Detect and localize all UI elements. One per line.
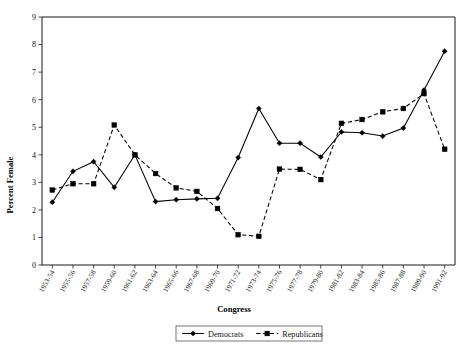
x-tick-label: 1973-74 xyxy=(244,269,263,294)
square-marker-icon xyxy=(380,109,385,114)
square-marker-icon xyxy=(318,177,323,182)
y-tick-label: 0 xyxy=(32,261,36,270)
y-tick-label: 4 xyxy=(32,151,36,160)
y-tick-label: 7 xyxy=(32,68,36,77)
diamond-marker-icon xyxy=(359,130,364,135)
data-series-group xyxy=(50,49,448,239)
y-tick-label: 2 xyxy=(32,206,36,215)
square-marker-icon xyxy=(442,147,447,152)
diamond-marker-icon xyxy=(380,133,385,138)
diamond-marker-icon xyxy=(277,141,282,146)
square-marker-icon xyxy=(277,167,282,172)
x-tick-label: 1961-62 xyxy=(120,269,139,294)
square-marker-icon xyxy=(194,189,199,194)
diamond-marker-icon xyxy=(256,106,261,111)
x-axis-ticks: 1953-541955-561957-581959-601961-621963-… xyxy=(38,265,449,294)
square-marker-icon xyxy=(71,181,76,186)
square-marker-icon xyxy=(339,121,344,126)
square-marker-icon xyxy=(215,206,220,211)
legend-label: Republicans xyxy=(282,330,322,339)
square-marker-icon xyxy=(174,185,179,190)
series-line xyxy=(52,51,444,202)
x-tick-label: 1991-92 xyxy=(430,269,449,294)
x-tick-label: 1957-58 xyxy=(79,269,98,294)
x-tick-label: 1965-66 xyxy=(162,269,181,294)
chart-container: 0123456789 1953-541955-561957-581959-601… xyxy=(0,0,468,350)
square-marker-icon xyxy=(133,152,138,157)
x-tick-label: 1953-54 xyxy=(38,269,57,294)
diamond-marker-icon xyxy=(236,155,241,160)
x-tick-label: 1969-70 xyxy=(203,269,222,294)
y-tick-label: 3 xyxy=(32,178,36,187)
x-tick-label: 1981-82 xyxy=(327,269,346,294)
y-tick-label: 1 xyxy=(32,233,36,242)
series-republicans xyxy=(50,91,447,239)
x-tick-label: 1987-88 xyxy=(389,269,408,294)
plot-frame xyxy=(42,17,455,265)
square-marker-icon xyxy=(401,106,406,111)
x-tick-label: 1975-76 xyxy=(265,269,284,294)
diamond-marker-icon xyxy=(442,49,447,54)
chart-legend: DemocratsRepublicans xyxy=(176,326,323,341)
y-axis-ticks: 0123456789 xyxy=(32,13,42,270)
y-axis-title: Percent Female xyxy=(5,156,15,213)
square-marker-icon xyxy=(50,188,55,193)
x-tick-label: 1963-64 xyxy=(141,269,160,294)
x-tick-label: 1971-72 xyxy=(223,269,242,294)
square-marker-icon xyxy=(256,234,261,239)
x-axis-title: Congress xyxy=(217,304,251,314)
line-chart: 0123456789 1953-541955-561957-581959-601… xyxy=(0,0,468,350)
diamond-marker-icon xyxy=(215,196,220,201)
square-marker-icon xyxy=(265,331,270,336)
y-tick-label: 9 xyxy=(32,13,36,22)
square-marker-icon xyxy=(112,123,117,128)
diamond-marker-icon xyxy=(401,125,406,130)
x-tick-label: 1985-86 xyxy=(368,269,387,294)
x-tick-label: 1989-90 xyxy=(409,269,428,294)
y-tick-label: 6 xyxy=(32,96,36,105)
x-tick-label: 1979-80 xyxy=(306,269,325,294)
x-tick-label: 1967-68 xyxy=(182,269,201,294)
square-marker-icon xyxy=(236,232,241,237)
x-tick-label: 1959-60 xyxy=(100,269,119,294)
legend-label: Democrats xyxy=(208,330,243,339)
square-marker-icon xyxy=(91,181,96,186)
x-tick-label: 1983-84 xyxy=(347,269,366,294)
x-tick-label: 1977-78 xyxy=(285,269,304,294)
x-tick-label: 1955-56 xyxy=(58,269,77,294)
square-marker-icon xyxy=(422,91,427,96)
diamond-marker-icon xyxy=(174,197,179,202)
square-marker-icon xyxy=(360,117,365,122)
y-tick-label: 8 xyxy=(32,40,36,49)
series-line xyxy=(52,94,444,237)
y-tick-label: 5 xyxy=(32,123,36,132)
diamond-marker-icon xyxy=(153,199,158,204)
square-marker-icon xyxy=(298,167,303,172)
series-democrats xyxy=(50,49,448,205)
square-marker-icon xyxy=(153,171,158,176)
diamond-marker-icon xyxy=(194,196,199,201)
